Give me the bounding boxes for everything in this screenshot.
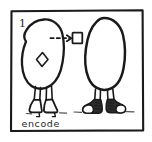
panel-index-label: 1 (19, 17, 26, 30)
right-figure-sneaker-left-toecap (83, 105, 94, 113)
left-figure-leg-left-inner (40, 88, 41, 101)
panel-drawing: 1 (0, 0, 152, 142)
left-figure-leg-right-inner (52, 86, 53, 99)
right-figure-sneaker-right-toecap (116, 105, 126, 113)
comic-panel: 1 (0, 0, 152, 142)
right-figure-leg-left (95, 89, 96, 100)
panel-caption: encode (22, 118, 60, 129)
right-figure-leg-right (108, 90, 109, 99)
